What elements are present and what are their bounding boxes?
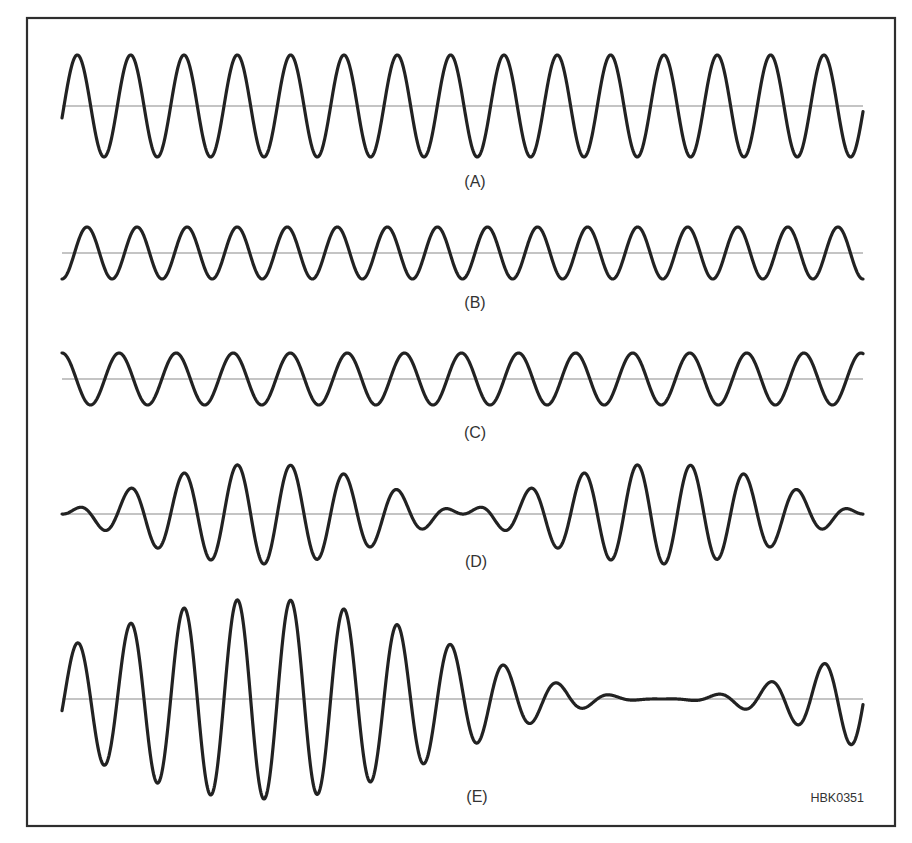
- panel-label-a: (A): [464, 173, 485, 190]
- panel-label-b: (B): [464, 294, 485, 311]
- panel-label-c: (C): [464, 424, 486, 441]
- panel-b: (B): [62, 227, 863, 311]
- panel-d: (D): [62, 465, 863, 570]
- figure-id-label: HBK0351: [810, 791, 864, 805]
- panel-label-e: (E): [466, 788, 487, 805]
- panel-c: (C): [62, 353, 863, 441]
- panel-e: (E): [62, 600, 863, 805]
- figure-frame: [27, 18, 895, 826]
- panel-label-d: (D): [465, 553, 487, 570]
- panel-a: (A): [62, 55, 863, 190]
- waveform-figure: (A) (B) (C) (D) (E) HBK0351: [0, 0, 912, 843]
